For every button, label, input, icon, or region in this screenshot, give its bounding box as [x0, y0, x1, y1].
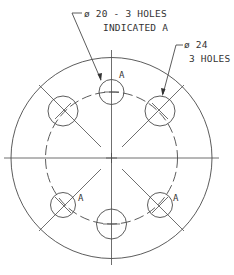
hole-marker-lower-left: A	[78, 193, 84, 203]
hole-large-upper-left	[48, 96, 78, 126]
hole-marker-lower-right: A	[173, 193, 179, 203]
flange-drawing: A A A ø 20 - 3 HOLES INDICATED A ø 24 3 …	[0, 0, 234, 275]
callout-large-holes-line1: ø 24	[184, 39, 208, 50]
leader-small-holes	[72, 13, 101, 80]
hole-marker-top: A	[119, 70, 125, 80]
leader-arrow-large	[161, 88, 166, 96]
callout-small-holes-line2: INDICATED A	[103, 22, 168, 33]
hole-large-upper-right	[145, 96, 175, 126]
callout-small-holes-line1: ø 20 - 3 HOLES	[84, 8, 167, 19]
leader-large-holes	[163, 45, 183, 94]
hole-small-lower-left	[51, 193, 76, 218]
callout-large-holes-line2: 3 HOLES	[189, 53, 231, 64]
hole-small-lower-right	[148, 193, 173, 218]
